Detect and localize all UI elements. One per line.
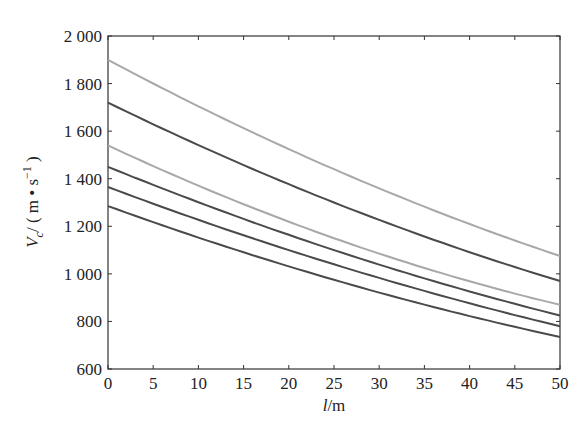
x-axis-title: l/m [323, 396, 346, 415]
x-tick-label: 5 [149, 374, 158, 393]
series-line-curve-2 [108, 103, 560, 281]
x-tick-label: 0 [104, 374, 113, 393]
x-tick-label: 10 [190, 374, 207, 393]
x-tick-label: 15 [235, 374, 252, 393]
y-tick-label: 2 000 [64, 27, 102, 46]
x-tick-label: 35 [416, 374, 433, 393]
x-tick-label: 45 [506, 374, 523, 393]
x-axis: 05101520253035404550 [104, 36, 569, 393]
y-tick-label: 1 000 [64, 265, 102, 284]
series-line-curve-4 [108, 167, 560, 316]
series-line-curve-6 [108, 206, 560, 337]
x-tick-label: 20 [280, 374, 297, 393]
y-tick-label: 1 200 [64, 217, 102, 236]
line-chart: 6008001 0001 2001 4001 6001 8002 000 051… [0, 0, 587, 441]
y-tick-label: 600 [77, 360, 103, 379]
x-tick-label: 50 [552, 374, 569, 393]
y-tick-label: 1 600 [64, 122, 102, 141]
y-axis-title: Vc/ ( m • s−1 ) [20, 156, 46, 248]
x-tick-label: 25 [326, 374, 343, 393]
y-axis: 6008001 0001 2001 4001 6001 8002 000 [64, 27, 560, 379]
x-tick-label: 30 [371, 374, 388, 393]
y-tick-label: 1 400 [64, 170, 102, 189]
series-line-curve-5 [108, 187, 560, 326]
series-group [108, 60, 560, 337]
y-tick-label: 1 800 [64, 75, 102, 94]
x-tick-label: 40 [461, 374, 478, 393]
y-tick-label: 800 [77, 312, 103, 331]
series-line-curve-1 [108, 60, 560, 256]
